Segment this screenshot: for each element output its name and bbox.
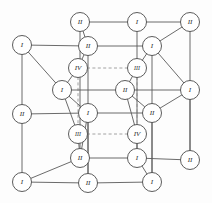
lattice-edge [30,161,71,178]
lattice-edge [142,166,147,175]
lattice-edge [97,182,143,183]
lattice-node: I [79,104,98,123]
lattice-node: I [181,81,200,100]
lattice-node: II [79,174,98,193]
lattice-node: II [143,104,162,123]
lattice-node: I [128,149,147,168]
node-label: III [74,131,82,137]
lattice-edge [83,31,85,38]
node-label: II [77,154,83,162]
lattice-node: I [143,173,162,192]
lattice-node: II [181,13,200,32]
lattice-node: II [116,81,135,100]
lattice-edge [132,96,145,107]
node-label: IV [74,64,82,72]
lattice-node: IV [128,125,147,144]
node-label: IV [133,130,141,138]
lattice-edge [160,27,183,41]
lattice-node: I [53,81,72,100]
lattice-figure: IIIIIIIIIIVIIIIIIIIIIIIIIIIVIIIIIIIII [0,0,212,203]
lattice-node: II [13,105,32,124]
node-label: II [149,109,155,117]
lattice-edge [31,113,79,114]
lattice-node: II [181,151,200,170]
lattice-edge [31,45,79,46]
lattice-nodes: IIIIIIIIIIVIIIIIIIIIIIIIIIIVIIIIIIIII [13,13,200,193]
lattice-node: III [128,59,147,78]
lattice-edges [22,22,190,183]
lattice-diagram: IIIIIIIIIIVIIIIIIIIIIIIIIIIVIIIIIIIII [0,0,212,203]
lattice-node: III [69,125,88,144]
lattice-edge [146,158,181,159]
node-label: II [187,156,193,164]
lattice-edge [127,99,134,126]
lattice-edge [129,76,132,82]
lattice-node: II [71,13,90,32]
lattice-edge [31,182,79,183]
lattice-node: I [128,13,147,32]
lattice-node: I [13,173,32,192]
node-label: III [133,65,141,71]
lattice-edge [142,53,147,60]
lattice-node: IV [69,59,88,78]
node-label: II [85,42,91,50]
lattice-edge [160,95,183,109]
lattice-edge [67,75,72,82]
lattice-edge [65,98,75,125]
lattice-edge [158,53,184,83]
lattice-node: II [79,37,98,56]
node-label: II [85,179,91,187]
node-label: II [122,86,128,94]
node-label: II [19,110,25,118]
node-label: II [77,18,83,26]
lattice-edge [69,96,82,107]
lattice-edge [28,52,56,84]
lattice-node: II [71,149,90,168]
node-label: II [187,18,193,26]
lattice-node: I [13,36,32,55]
lattice-node: I [143,37,162,56]
